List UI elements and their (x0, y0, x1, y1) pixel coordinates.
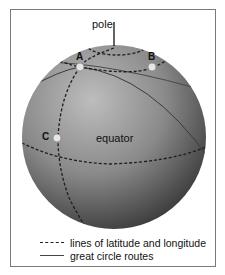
point-c-label: C (42, 131, 49, 142)
point-a-marker (76, 63, 84, 71)
point-a-label: A (76, 51, 83, 62)
legend-label: great circle routes (70, 250, 153, 262)
legend-label: lines of latitude and longitude (70, 237, 206, 249)
point-b-label: B (148, 51, 155, 62)
point-c-marker (53, 134, 61, 142)
dashed-line-swatch-icon (40, 242, 64, 243)
legend-item-dashed: lines of latitude and longitude (40, 236, 206, 249)
legend-item-solid: great circle routes (40, 249, 206, 262)
point-b-marker (148, 63, 156, 71)
solid-line-swatch-icon (40, 255, 64, 256)
legend: lines of latitude and longitude great ci… (40, 236, 206, 262)
equator-label: equator (96, 132, 133, 144)
pole-label: pole (92, 18, 113, 30)
